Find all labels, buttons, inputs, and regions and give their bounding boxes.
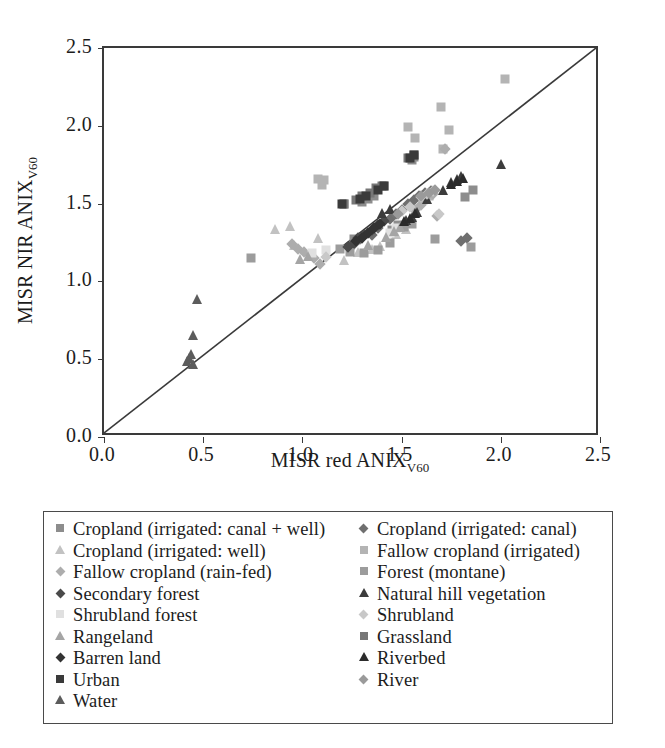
data-point — [456, 171, 466, 181]
data-point — [407, 219, 416, 228]
y-axis-tick — [98, 281, 104, 282]
data-point — [369, 191, 378, 200]
diamond-marker-icon — [54, 568, 66, 575]
data-point — [399, 216, 409, 226]
legend-item[interactable]: Water — [54, 691, 358, 713]
data-point — [309, 252, 320, 263]
data-point — [340, 199, 349, 208]
legend-swatch — [55, 567, 65, 577]
legend-item-label: Rangeland — [73, 627, 153, 649]
data-point — [407, 156, 416, 165]
triangle-marker-icon — [54, 545, 66, 554]
data-point — [409, 151, 418, 160]
data-point — [372, 223, 383, 234]
data-point — [393, 221, 402, 230]
data-point — [455, 235, 466, 246]
data-point — [392, 209, 403, 220]
data-point — [412, 207, 422, 217]
legend-swatch — [360, 567, 368, 575]
chart-block: MISR NIR ANIXV60 0.00.51.01.52.02.50.00.… — [0, 0, 665, 495]
data-point — [299, 246, 310, 257]
legend-item[interactable]: River — [358, 670, 602, 692]
legend-item[interactable]: Fallow cropland (irrigated) — [358, 541, 602, 563]
data-point — [184, 353, 194, 363]
data-point — [372, 220, 383, 231]
triangle-marker-icon — [54, 631, 66, 640]
legend-item[interactable]: Rangeland — [54, 627, 358, 649]
data-point — [359, 249, 368, 258]
data-point — [401, 224, 411, 234]
legend-item[interactable]: Shrubland — [358, 605, 602, 627]
data-point — [424, 187, 435, 198]
legend-swatch — [56, 610, 64, 618]
data-point — [338, 199, 347, 208]
y-axis-tick-label: 2.5 — [66, 35, 92, 58]
data-point — [467, 243, 476, 252]
x-axis-title-text: MISR red ANIX — [271, 449, 407, 471]
data-point — [458, 173, 468, 183]
y-axis-tick-label: 0.0 — [66, 424, 92, 447]
legend-swatch — [55, 545, 65, 554]
legend-swatch — [55, 695, 65, 704]
legend-item-label: Urban — [73, 670, 120, 692]
data-point — [285, 221, 295, 231]
legend-swatch — [360, 632, 368, 640]
data-point — [363, 240, 373, 250]
x-axis-title-subscript: V60 — [407, 460, 429, 475]
data-point — [367, 244, 377, 254]
data-point — [348, 238, 359, 249]
data-point — [373, 246, 382, 255]
y-axis-title-text: MISR NIR ANIX — [15, 179, 37, 324]
data-point — [246, 254, 255, 263]
square-marker-icon — [358, 546, 370, 554]
triangle-marker-icon — [358, 588, 370, 597]
data-point — [321, 251, 332, 262]
data-point — [396, 206, 407, 217]
legend-item[interactable]: Grassland — [358, 627, 602, 649]
legend-item[interactable]: Riverbed — [358, 648, 602, 670]
plot-area — [102, 46, 598, 435]
data-point — [322, 246, 331, 255]
y-axis-title: MISR NIR ANIXV60 — [14, 46, 42, 435]
data-point — [389, 226, 399, 236]
legend-item[interactable]: Forest (montane) — [358, 562, 602, 584]
y-axis-tick-label: 2.0 — [66, 112, 92, 135]
legend-item-label: River — [377, 670, 419, 692]
data-point — [391, 229, 401, 239]
legend-column-right: Cropland (irrigated: canal)Fallow cropla… — [358, 519, 602, 717]
data-point — [426, 185, 437, 196]
data-point — [416, 190, 427, 201]
data-point — [407, 212, 417, 222]
legend-columns: Cropland (irrigated: canal + well)Cropla… — [54, 519, 602, 717]
diamond-marker-icon — [54, 590, 66, 597]
legend-item[interactable]: Shrubland forest — [54, 605, 358, 627]
legend-item[interactable]: Natural hill vegetation — [358, 584, 602, 606]
legend-item[interactable]: Barren land — [54, 648, 358, 670]
data-point — [425, 191, 434, 200]
legend-item[interactable]: Cropland (irrigated: canal + well) — [54, 519, 358, 541]
data-point — [404, 201, 415, 212]
data-point — [354, 234, 365, 245]
legend-item[interactable]: Cropland (irrigated: canal) — [358, 519, 602, 541]
data-point — [399, 222, 408, 231]
data-point — [270, 224, 280, 234]
legend-item[interactable]: Fallow cropland (rain-fed) — [54, 562, 358, 584]
data-point — [432, 210, 443, 221]
data-point — [419, 196, 428, 205]
data-point — [287, 238, 298, 249]
data-point — [373, 185, 382, 194]
legend-swatch — [359, 588, 369, 597]
legend-item[interactable]: Secondary forest — [54, 584, 358, 606]
legend-swatch — [55, 588, 65, 598]
legend-item[interactable]: Urban — [54, 670, 358, 692]
data-point — [365, 188, 374, 197]
data-point — [428, 185, 439, 196]
legend-item[interactable]: Cropland (irrigated: well) — [54, 541, 358, 563]
data-point — [500, 75, 509, 84]
legend-item-label: Cropland (irrigated: well) — [73, 541, 266, 563]
data-point — [439, 145, 448, 154]
data-point — [339, 255, 349, 265]
y-axis-tick-label: 0.5 — [66, 346, 92, 369]
legend-item-label: Grassland — [377, 627, 452, 649]
data-point — [379, 182, 388, 191]
